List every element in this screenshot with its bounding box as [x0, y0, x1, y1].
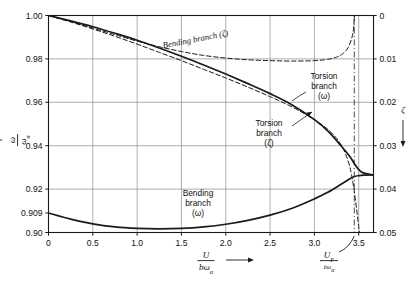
y-tick-label-left-6: 0.90: [26, 228, 43, 238]
annotation-bending-branch-omega-line-0: Bending: [183, 188, 214, 198]
y-tick-label-left-2: 0.96: [26, 97, 43, 107]
annotation-torsion-branch-zeta-line-1: branch: [256, 128, 282, 138]
x-tick-label-7: 3.5: [353, 238, 365, 248]
y-axis-left-numerator: ω: [7, 137, 17, 143]
y-tick-label-right-5: 0.05: [380, 228, 397, 238]
x-tick-label-0: 0: [46, 238, 51, 248]
annotation-bending-branch-omega-line-1: branch: [185, 198, 211, 208]
annotation-torsion-branch-zeta-line-2: (ζ): [264, 138, 273, 148]
annotation-torsion-branch-omega-line-0: Torsion: [311, 71, 338, 81]
x-tick-label-3: 1.5: [175, 238, 187, 248]
x-tick-label-1: 0.5: [87, 238, 99, 248]
flutter-vg-diagram: 00.51.01.52.02.53.03.51.000.980.960.940.…: [0, 0, 417, 283]
x-axis-label-numerator: U: [203, 250, 210, 260]
y-tick-label-right-3: 0.03: [380, 141, 397, 151]
y-tick-label-left-4: 0.92: [26, 184, 43, 194]
chart-root: 00.51.01.52.02.53.03.51.000.980.960.940.…: [0, 0, 417, 283]
y-tick-label-left-1: 0.98: [26, 54, 43, 64]
annotation-torsion-branch-omega-line-2: (ω): [318, 91, 330, 101]
x-tick-label-6: 3.0: [308, 238, 320, 248]
y-tick-label-left-0: 1.00: [26, 11, 43, 21]
x-tick-label-5: 2.5: [264, 238, 276, 248]
y-tick-label-right-1: 0.01: [380, 54, 397, 64]
y-tick-label-right-4: 0.04: [380, 184, 397, 194]
y-tick-label-right-0: 0: [380, 11, 385, 21]
annotation-bending-branch-omega-line-2: (ω): [192, 208, 204, 218]
annotation-torsion-branch-omega-line-1: branch: [311, 81, 337, 91]
annotation-torsion-branch-zeta-line-0: Torsion: [256, 118, 283, 128]
x-tick-label-4: 2.0: [220, 238, 232, 248]
y-tick-label-left-5: 0.909: [21, 208, 43, 218]
y-tick-label-right-2: 0.02: [380, 97, 397, 107]
x-tick-label-2: 1.0: [131, 238, 143, 248]
